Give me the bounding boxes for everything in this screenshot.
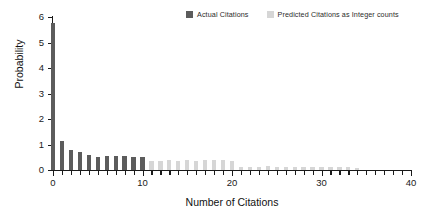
bar — [328, 167, 332, 170]
x-axis-tick-minor — [277, 171, 278, 175]
y-axis-tick-label: 6 — [28, 12, 44, 22]
bar — [266, 166, 270, 170]
x-axis-tick-minor — [384, 171, 385, 175]
x-axis-tick-major — [143, 171, 144, 176]
bar — [87, 155, 91, 170]
x-axis-tick-minor — [169, 171, 170, 175]
bar — [301, 167, 305, 170]
bar — [239, 167, 243, 170]
x-axis-title: Number of Citations — [53, 196, 411, 208]
x-axis-tick-minor — [134, 171, 135, 175]
bar — [69, 150, 73, 170]
bar — [203, 160, 207, 170]
bar-series-container — [53, 17, 411, 170]
bar — [248, 167, 252, 170]
bar — [78, 152, 82, 170]
x-axis-tick-minor — [107, 171, 108, 175]
bar — [158, 161, 162, 170]
x-axis-tick-minor — [151, 171, 152, 175]
bar — [275, 167, 279, 170]
x-axis-tick-minor — [250, 171, 251, 175]
x-axis-tick-minor — [268, 171, 269, 175]
bar — [293, 167, 297, 170]
bar — [122, 156, 126, 170]
bar — [257, 167, 261, 170]
y-axis-tick-label: 4 — [28, 63, 44, 73]
y-axis-tick — [48, 17, 52, 18]
y-axis-tick-label: 0 — [28, 165, 44, 175]
bar — [176, 161, 180, 170]
x-axis-tick-label: 40 — [398, 178, 424, 188]
bar — [131, 157, 135, 171]
bar — [212, 160, 216, 170]
x-axis-tick-minor — [313, 171, 314, 175]
x-axis-tick-minor — [295, 171, 296, 175]
bar — [96, 157, 100, 170]
y-axis-tick-label: 2 — [28, 114, 44, 124]
x-axis-tick-minor — [196, 171, 197, 175]
x-axis-tick-minor — [71, 171, 72, 175]
x-axis-tick-minor — [366, 171, 367, 175]
bar — [284, 167, 288, 170]
bar — [319, 167, 323, 170]
bar — [185, 160, 189, 170]
x-axis-tick-label: 20 — [219, 178, 245, 188]
x-axis-tick-minor — [402, 171, 403, 175]
y-axis-tick-label: 1 — [28, 140, 44, 150]
x-axis-tick-minor — [98, 171, 99, 175]
x-axis-tick-minor — [62, 171, 63, 175]
bar — [194, 161, 198, 170]
x-axis-tick-minor — [80, 171, 81, 175]
bar — [149, 161, 153, 170]
x-axis-tick-minor — [187, 171, 188, 175]
y-axis-title: Probability — [13, 19, 25, 109]
bar — [310, 167, 314, 170]
x-axis-tick-minor — [393, 171, 394, 175]
bar — [346, 167, 350, 170]
citation-probability-chart: Actual Citations Predicted Citations as … — [0, 0, 429, 223]
x-axis-tick-label: 10 — [130, 178, 156, 188]
bar — [140, 157, 144, 171]
bar — [355, 168, 359, 170]
x-axis-tick-minor — [205, 171, 206, 175]
y-axis-tick-label: 5 — [28, 38, 44, 48]
x-axis-tick-minor — [89, 171, 90, 175]
x-axis-tick-minor — [286, 171, 287, 175]
x-axis-tick-major — [232, 171, 233, 176]
bar — [114, 156, 118, 170]
x-axis-tick-major — [411, 171, 412, 176]
x-axis-tick-minor — [178, 171, 179, 175]
x-axis-tick-minor — [214, 171, 215, 175]
bar — [60, 141, 64, 170]
x-axis-tick-minor — [375, 171, 376, 175]
x-axis-tick-major — [53, 171, 54, 176]
x-axis-tick-minor — [348, 171, 349, 175]
bar — [51, 23, 55, 170]
x-axis-tick-minor — [125, 171, 126, 175]
bar — [167, 160, 171, 170]
x-axis-tick-label: 0 — [40, 178, 66, 188]
x-axis-tick-minor — [160, 171, 161, 175]
x-axis-tick-minor — [241, 171, 242, 175]
y-axis-tick-label: 3 — [28, 89, 44, 99]
x-axis-tick-minor — [330, 171, 331, 175]
x-axis-tick-minor — [259, 171, 260, 175]
x-axis-tick-minor — [339, 171, 340, 175]
x-axis-tick-major — [322, 171, 323, 176]
bar — [230, 161, 234, 170]
x-axis-tick-label: 30 — [309, 178, 335, 188]
plot-area — [53, 17, 411, 170]
x-axis-tick-minor — [223, 171, 224, 175]
x-axis-tick-minor — [357, 171, 358, 175]
y-axis-tick — [48, 170, 52, 171]
x-axis-tick-minor — [304, 171, 305, 175]
x-axis-tick-minor — [116, 171, 117, 175]
bar — [337, 167, 341, 170]
bar — [105, 156, 109, 170]
bar — [221, 160, 225, 170]
